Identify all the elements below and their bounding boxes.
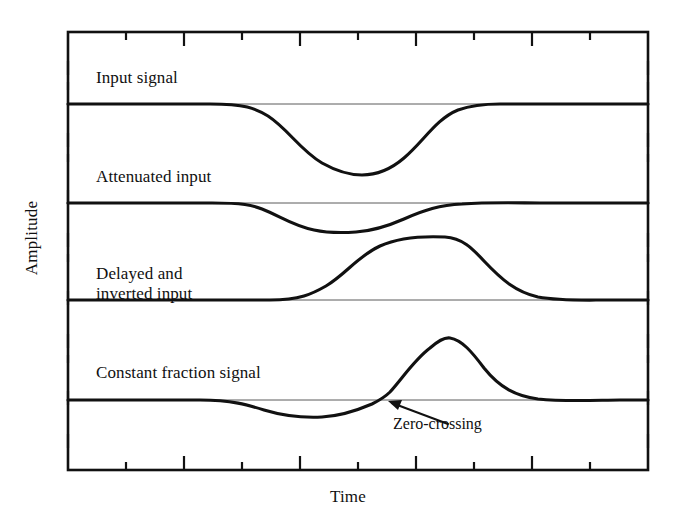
frame-border [68, 32, 648, 470]
trace-label-input-signal: Input signal [96, 68, 178, 88]
plot-frame [68, 32, 648, 470]
trace-label-delayed-inverted-input: Delayed and inverted input [96, 264, 192, 304]
top-ticks [126, 32, 590, 46]
bottom-ticks [126, 456, 590, 470]
curve-input-signal [68, 104, 648, 175]
figure-panel: Amplitude Time Input signal Attenuated i… [0, 0, 682, 528]
curve-attenuated-input [68, 203, 648, 233]
y-axis-label: Amplitude [22, 178, 42, 298]
zero-crossing-annotation: Zero-crossing [393, 415, 482, 433]
trace-label-attenuated-input: Attenuated input [96, 167, 211, 187]
baselines [68, 104, 648, 400]
x-axis-label: Time [288, 487, 408, 507]
trace-label-constant-fraction-signal: Constant fraction signal [96, 363, 261, 383]
